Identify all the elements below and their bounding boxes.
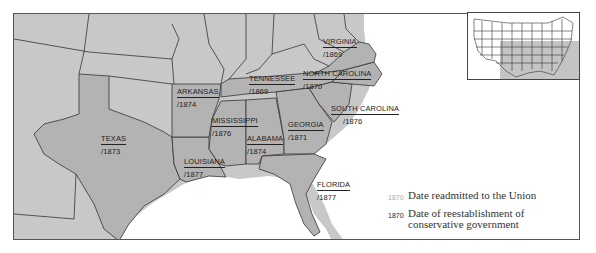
- state-name: ARKANSAS: [177, 87, 219, 98]
- state-name: NORTH CAROLINA: [303, 69, 371, 80]
- state-label-florida: FLORIDA /1877: [317, 180, 350, 202]
- state-name: SOUTH CAROLINA: [331, 104, 399, 115]
- state-name: LOUISIANA: [184, 157, 225, 168]
- us-locator-map: [468, 13, 580, 80]
- conservative-date: /1877: [317, 193, 336, 202]
- state-label-tennessee: TENNESSEE /1869: [249, 74, 295, 96]
- state-label-south-carolina: SOUTH CAROLINA /1876: [331, 104, 399, 126]
- conservative-date: /1873: [101, 147, 120, 156]
- conservative-date: /1870: [303, 82, 322, 91]
- legend-label: Date of reestablishment of conservative …: [408, 208, 578, 230]
- state-name: TENNESSEE: [249, 74, 295, 85]
- legend-item-conservative: 1870 Date of reestablishment of conserva…: [388, 208, 578, 230]
- conservative-date: /1869: [249, 87, 268, 96]
- conservative-date: /1869: [323, 50, 342, 59]
- state-label-georgia: GEORGIA /1871: [288, 120, 324, 142]
- state-label-north-carolina: NORTH CAROLINA /1870: [303, 69, 371, 91]
- state-label-virginia: VIRGINIA /1869: [323, 37, 357, 59]
- state-name: VIRGINIA: [323, 37, 357, 48]
- legend-item-readmitted: 1870 Date readmitted to the Union: [388, 190, 578, 203]
- state-name: FLORIDA: [317, 180, 350, 191]
- state-label-texas: TEXAS /1873: [101, 134, 126, 156]
- conservative-date: /1876: [212, 129, 231, 138]
- state-label-arkansas: ARKANSAS /1874: [177, 87, 219, 109]
- map-legend: 1870 Date readmitted to the Union 1870 D…: [388, 190, 578, 235]
- state-label-louisiana: LOUISIANA /1877: [184, 157, 225, 179]
- conservative-date: /1871: [288, 133, 307, 142]
- state-name: ALABAMA: [247, 134, 283, 145]
- state-name: GEORGIA: [288, 120, 324, 131]
- legend-year-dark: 1870: [388, 208, 408, 221]
- state-name: MISSISSIPPI: [212, 116, 258, 127]
- state-name: TEXAS: [101, 134, 126, 145]
- conservative-date: /1876: [343, 117, 362, 126]
- legend-label: Date readmitted to the Union: [408, 190, 578, 201]
- conservative-date: /1877: [184, 170, 203, 179]
- conservative-date: /1874: [177, 100, 196, 109]
- state-label-alabama: ALABAMA /1874: [247, 134, 283, 156]
- us-locator-inset: [467, 12, 580, 80]
- legend-year-light: 1870: [388, 190, 408, 203]
- conservative-date: /1874: [247, 147, 266, 156]
